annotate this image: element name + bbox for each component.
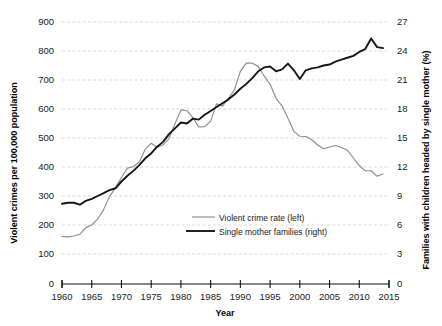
chart-container: 0100200300400500600700800900 03691215182… (0, 0, 442, 326)
series-line-single-mother-families (62, 38, 383, 204)
left-tick-label-800: 800 (38, 45, 54, 56)
left-tick-label-600: 600 (38, 103, 54, 114)
right-tick-label-9: 9 (397, 190, 402, 201)
right-axis-tick-labels: 0369121518212427 (397, 16, 408, 289)
x-tick-label-1960: 1960 (51, 291, 72, 302)
left-tick-label-900: 900 (38, 16, 54, 27)
left-tick-label-400: 400 (38, 161, 54, 172)
right-tick-label-24: 24 (397, 45, 408, 56)
left-tick-label-0: 0 (49, 278, 54, 289)
x-axis-tick-labels: 1960196519701975198019851990199520002005… (51, 291, 399, 302)
right-tick-label-0: 0 (397, 278, 402, 289)
x-tick-label-2010: 2010 (349, 291, 370, 302)
x-tick-label-1980: 1980 (170, 291, 191, 302)
legend-label-single-mother-families: Single mother families (right) (219, 227, 327, 237)
left-tick-label-100: 100 (38, 248, 54, 259)
left-tick-label-200: 200 (38, 219, 54, 230)
x-axis-group (62, 280, 389, 288)
right-tick-label-18: 18 (397, 103, 408, 114)
right-axis-title: Families with children headed by single … (421, 50, 431, 269)
left-tick-label-300: 300 (38, 190, 54, 201)
x-tick-label-2000: 2000 (289, 291, 310, 302)
right-tick-label-27: 27 (397, 16, 408, 27)
x-tick-label-1965: 1965 (81, 291, 102, 302)
x-tick-label-1985: 1985 (200, 291, 221, 302)
left-tick-label-500: 500 (38, 132, 54, 143)
x-tick-label-1970: 1970 (111, 291, 132, 302)
right-tick-label-15: 15 (397, 132, 408, 143)
right-tick-label-12: 12 (397, 161, 408, 172)
x-tick-label-1975: 1975 (141, 291, 162, 302)
right-tick-label-6: 6 (397, 219, 402, 230)
series-line-violent-crime-rate (62, 63, 383, 237)
x-axis-title: Year (215, 308, 235, 318)
x-tick-label-2015: 2015 (378, 291, 399, 302)
x-tick-label-2005: 2005 (319, 291, 340, 302)
left-axis-tick-labels: 0100200300400500600700800900 (38, 16, 54, 289)
x-tick-label-1990: 1990 (230, 291, 251, 302)
x-tick-label-1995: 1995 (260, 291, 281, 302)
legend-label-violent-crime-rate: Violent crime rate (left) (219, 213, 305, 223)
left-axis-title: Violent crimes per 100,000 population (9, 82, 19, 243)
right-tick-label-21: 21 (397, 74, 408, 85)
left-tick-label-700: 700 (38, 74, 54, 85)
right-tick-label-3: 3 (397, 248, 402, 259)
dual-axis-line-chart: 0100200300400500600700800900 03691215182… (0, 0, 442, 326)
chart-legend: Violent crime rate (left) Single mother … (186, 213, 327, 237)
